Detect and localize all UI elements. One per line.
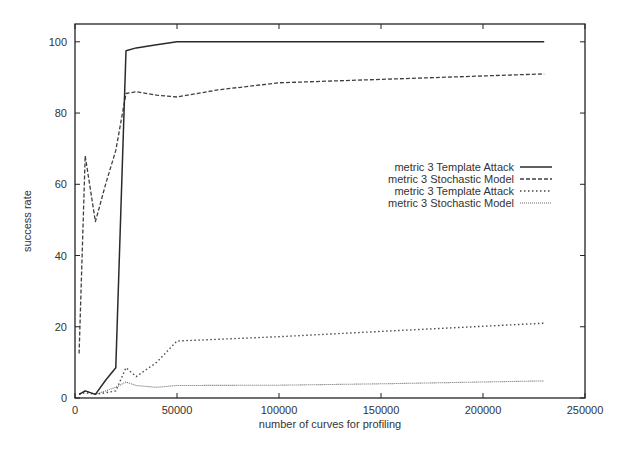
x-axis-label: number of curves for profiling — [259, 418, 401, 430]
y-tick-label: 100 — [49, 36, 67, 48]
y-tick-label: 20 — [55, 321, 67, 333]
x-tick-label: 0 — [72, 404, 78, 416]
legend-label: metric 3 Stochastic Model — [388, 197, 514, 209]
y-axis-label: success rate — [21, 190, 33, 252]
legend-label: metric 3 Stochastic Model — [388, 173, 514, 185]
y-tick-label: 0 — [61, 392, 67, 404]
line-chart: 050000100000150000200000250000 020406080… — [0, 0, 625, 454]
x-tick-label: 200000 — [465, 404, 502, 416]
x-tick-label: 100000 — [261, 404, 298, 416]
legend-label: metric 3 Template Attack — [394, 161, 514, 173]
x-tick-label: 150000 — [363, 404, 400, 416]
y-tick-label: 60 — [55, 178, 67, 190]
y-tick-label: 80 — [55, 107, 67, 119]
x-tick-label: 50000 — [162, 404, 193, 416]
legend-label: metric 3 Template Attack — [394, 185, 514, 197]
chart-background — [0, 0, 625, 454]
y-tick-label: 40 — [55, 250, 67, 262]
x-tick-label: 250000 — [567, 404, 604, 416]
